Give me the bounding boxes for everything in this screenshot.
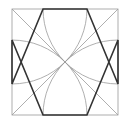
octagon-construction-diagram bbox=[0, 0, 128, 121]
